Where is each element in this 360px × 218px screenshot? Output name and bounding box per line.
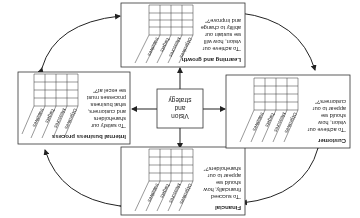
question-line: customers?” bbox=[315, 99, 346, 105]
question-line: appear to our bbox=[313, 106, 346, 112]
question-line: “To succeed bbox=[211, 194, 241, 200]
arrow-internal-learning bbox=[42, 16, 120, 68]
arrow-learning-customer bbox=[240, 13, 315, 70]
question-line: “To satisfy our bbox=[91, 123, 126, 129]
question-line: what business bbox=[90, 102, 127, 108]
question-line: vision, how bbox=[317, 120, 346, 126]
question-line: and improve?” bbox=[205, 18, 241, 24]
center-line-2: and bbox=[174, 105, 185, 112]
balanced-scorecard-diagram: Vision and strategy Financial “To succee… bbox=[0, 0, 360, 218]
question-line: we excel at?” bbox=[93, 88, 127, 94]
question-line: shareholders bbox=[93, 116, 126, 122]
perspective-title: Financial bbox=[215, 205, 241, 211]
question-line: and customers, bbox=[87, 109, 126, 115]
center-line-3: strategy bbox=[168, 96, 192, 104]
perspective-internal: Internal business process “To satisfy ou… bbox=[18, 72, 130, 144]
question-line: ability to change bbox=[201, 25, 241, 31]
arrow-financial-internal bbox=[45, 150, 120, 206]
perspective-financial: Financial “To succeed financially, how s… bbox=[121, 147, 245, 215]
question-line: “To achieve our bbox=[308, 127, 346, 133]
perspective-customer: Customer “To achieve our vision, how sho… bbox=[226, 75, 350, 148]
question-line: appear to our bbox=[208, 173, 241, 179]
question-line: “To achieve our bbox=[203, 46, 241, 52]
question-line: should we bbox=[321, 113, 346, 119]
question-line: vision, how will bbox=[204, 39, 241, 45]
vision-strategy-box: Vision and strategy bbox=[157, 89, 203, 128]
perspective-title: Learning and growth bbox=[181, 57, 241, 63]
perspective-title: Internal business process bbox=[51, 134, 126, 140]
question-line: we sustain our bbox=[205, 32, 242, 38]
question-line: shareholders?” bbox=[204, 166, 241, 172]
question-line: processes must bbox=[86, 95, 126, 101]
question-line: financially, how bbox=[203, 187, 241, 193]
question-line: should we bbox=[216, 180, 241, 186]
perspective-learning: Learning and growth “To achieve our visi… bbox=[121, 3, 245, 67]
perspective-title: Customer bbox=[317, 138, 346, 144]
center-line-1: Vision bbox=[171, 113, 189, 120]
arrow-customer-financial bbox=[242, 148, 318, 203]
